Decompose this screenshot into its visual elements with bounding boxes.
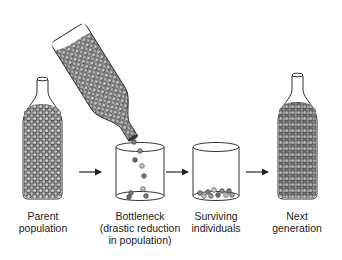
label-line: Next	[266, 210, 328, 222]
label-line: in population)	[98, 234, 182, 246]
parent-bottle	[23, 77, 62, 199]
bottleneck-cup	[116, 140, 164, 201]
label-line: (drastic reduction	[98, 222, 182, 234]
label-line: Surviving	[184, 210, 248, 222]
label-line: Bottleneck	[98, 210, 182, 222]
label-line: population	[12, 222, 74, 234]
surviving-cup	[193, 143, 239, 201]
label-line: generation	[266, 222, 328, 234]
label-next-generation: Next generation	[266, 210, 328, 234]
label-parent-population: Parent population	[12, 210, 74, 234]
label-surviving-individuals: Surviving individuals	[184, 210, 248, 234]
label-bottleneck: Bottleneck (drastic reduction in populat…	[98, 210, 182, 246]
label-line: individuals	[184, 222, 248, 234]
pouring-bottle	[50, 22, 150, 150]
next-generation-bottle	[278, 73, 317, 199]
label-line: Parent	[12, 210, 74, 222]
